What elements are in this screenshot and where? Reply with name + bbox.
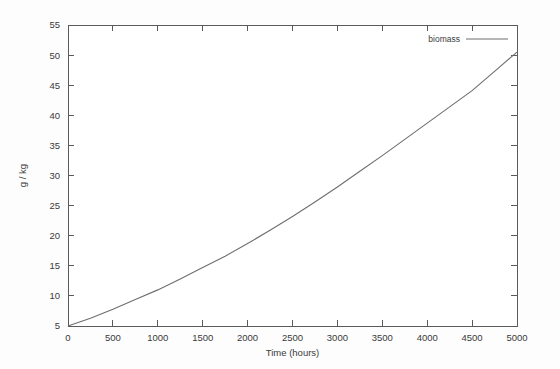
y-tick-label: 25 bbox=[49, 200, 60, 211]
x-tick-label: 2000 bbox=[237, 332, 258, 343]
x-tick-label: 1500 bbox=[192, 332, 213, 343]
x-tick-label: 500 bbox=[105, 332, 121, 343]
x-tick-label: 4000 bbox=[417, 332, 438, 343]
y-tick-label: 20 bbox=[49, 230, 60, 241]
y-tick-label: 35 bbox=[49, 140, 60, 151]
x-tick-label: 1000 bbox=[147, 332, 168, 343]
x-tick-label: 3500 bbox=[372, 332, 393, 343]
y-axis-title: g / kg bbox=[17, 164, 28, 187]
y-tick-label: 45 bbox=[49, 80, 60, 91]
y-tick-label: 15 bbox=[49, 260, 60, 271]
plot-area bbox=[68, 25, 517, 326]
x-tick-label: 3000 bbox=[327, 332, 348, 343]
x-axis-title: Time (hours) bbox=[266, 347, 320, 358]
line-chart: 510152025303540455055 050010001500200025… bbox=[0, 0, 560, 369]
y-tick-label: 55 bbox=[49, 19, 60, 30]
x-tick-label: 4500 bbox=[462, 332, 483, 343]
y-tick-label: 30 bbox=[49, 170, 60, 181]
y-tick-label: 10 bbox=[49, 290, 60, 301]
x-tick-label: 0 bbox=[65, 332, 70, 343]
legend-label-biomass: biomass bbox=[428, 34, 460, 44]
x-tick-label: 5000 bbox=[506, 332, 527, 343]
y-tick-label: 40 bbox=[49, 110, 60, 121]
chart-figure: 510152025303540455055 050010001500200025… bbox=[0, 0, 560, 369]
y-tick-label: 50 bbox=[49, 50, 60, 61]
y-tick-label: 5 bbox=[55, 320, 60, 331]
x-tick-label: 2500 bbox=[282, 332, 303, 343]
